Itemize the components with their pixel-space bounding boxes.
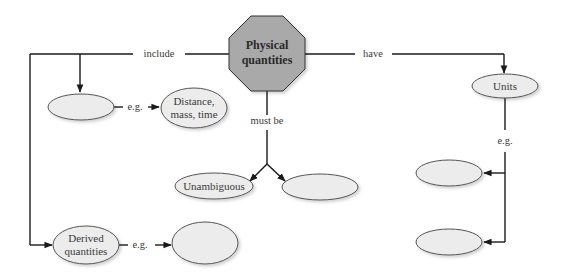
node-label: Units [493,80,517,92]
edge-include: include [30,48,229,245]
edge-label-include: include [144,48,175,59]
edge-units-eg: e.g. [484,98,513,242]
node-derived-examples-blank [172,222,238,264]
edge-must-be: must be [250,90,285,181]
edge-have: have [305,48,504,73]
node-derived-quantities: Derived quantities [53,226,119,264]
edge-derived-eg: e.g. [119,239,171,250]
node-label-line1: Distance, [173,95,214,107]
node-label-line2: mass, time [170,108,217,120]
node-base-quantities-blank [48,94,114,120]
edge-label-derived-eg: e.g. [132,239,147,250]
edge-label-must-be: must be [251,115,284,126]
node-label-line1: Derived [68,232,104,244]
edge-label-have: have [363,48,383,59]
node-base-examples: Distance, mass, time [161,88,227,128]
node-units-example-1 [416,160,482,186]
node-units: Units [472,74,538,98]
node-label-line2: quantities [242,53,293,67]
node-units-example-2 [416,229,482,255]
edge-base-eg: e.g. [114,101,159,112]
node-label: Unambiguous [183,180,245,192]
node-label-line1: Physical [246,38,289,52]
edge-label-base-eg: e.g. [127,101,142,112]
edge-label-units-eg: e.g. [497,135,512,146]
node-must-be-blank [282,174,358,200]
node-unambiguous: Unambiguous [175,173,253,199]
concept-map: include have e.g. must be e.g. e.g. [0,0,564,279]
node-physical-quantities: Physical quantities [229,16,305,91]
node-label-line2: quantities [65,245,108,257]
